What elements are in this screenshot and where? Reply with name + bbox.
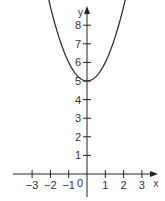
y-tick-label: 2	[75, 131, 81, 143]
y-tick-label: 1	[75, 149, 81, 161]
x-tick-label: 3	[139, 179, 145, 191]
x-tick-label: −3	[26, 179, 39, 191]
x-tick-label: −2	[44, 179, 57, 191]
x-axis-label: x	[154, 178, 159, 189]
y-tick-label: 3	[75, 112, 81, 124]
y-tick-label: 8	[75, 19, 81, 31]
y-tick-label: 4	[75, 94, 81, 106]
y-tick-label: 5	[75, 75, 81, 87]
origin-label: 0	[77, 177, 83, 189]
x-tick-label: 2	[121, 179, 127, 191]
x-tick-label: 1	[102, 179, 108, 191]
y-tick-label: 6	[75, 56, 81, 68]
x-axis-arrow-icon	[150, 171, 158, 177]
x-tick-label: −1	[62, 179, 75, 191]
function-graph: −3−2−1123123456780xy	[0, 0, 165, 201]
y-tick-label: 7	[75, 38, 81, 50]
y-axis-label: y	[78, 7, 83, 18]
axis-labels: −3−2−1123123456780xy	[26, 7, 159, 191]
axes	[13, 6, 158, 197]
y-axis-arrow-icon	[84, 6, 90, 14]
